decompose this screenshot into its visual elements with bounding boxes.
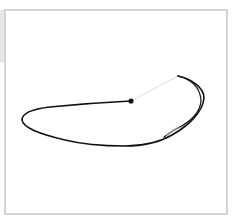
stroke-endpoint-dot <box>128 98 133 103</box>
main-loop-stroke <box>22 76 204 146</box>
sketch-canvas[interactable] <box>0 0 236 221</box>
faint-connector-line <box>131 76 178 101</box>
